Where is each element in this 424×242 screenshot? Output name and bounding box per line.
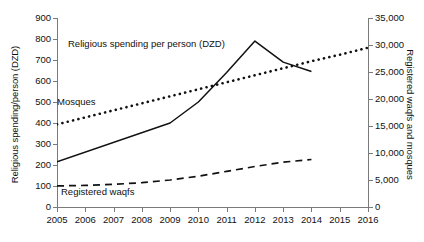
y-axis-right-tick-label: 30,000	[375, 40, 419, 50]
x-axis-tick-mark	[368, 208, 369, 212]
y-axis-left-tick-label: 700	[17, 55, 51, 65]
x-axis-tick-mark	[170, 208, 171, 212]
x-axis-line	[57, 207, 369, 208]
x-axis-tick-label: 2012	[239, 215, 271, 225]
series-annotation-spending: Religious spending per person (DZD)	[68, 38, 225, 49]
y-axis-right-tick-mark	[369, 99, 373, 100]
y-axis-right-tick-mark	[369, 72, 373, 73]
x-axis-tick-label: 2008	[126, 215, 158, 225]
x-axis-tick-mark	[283, 208, 284, 212]
y-axis-right-tick-label: 10,000	[375, 148, 419, 158]
x-axis-tick-label: 2015	[324, 215, 356, 225]
series-line-3	[57, 159, 311, 185]
y-axis-right-tick-mark	[369, 45, 373, 46]
y-axis-right-tick-mark	[369, 126, 373, 127]
y-axis-left-tick-label: 100	[17, 181, 51, 191]
y-axis-left-tick-label: 0	[17, 202, 51, 212]
x-axis-tick-mark	[198, 208, 199, 212]
series-line-2	[57, 48, 368, 125]
y-axis-right-tick-label: 35,000	[375, 13, 419, 23]
y-axis-left-tick-label: 600	[17, 76, 51, 86]
x-axis-tick-label: 2014	[295, 215, 327, 225]
y-axis-right-tick-mark	[369, 153, 373, 154]
x-axis-tick-label: 2010	[182, 215, 214, 225]
x-axis-tick-label: 2016	[352, 215, 384, 225]
y-axis-right-tick-mark	[369, 180, 373, 181]
x-axis-tick-mark	[255, 208, 256, 212]
y-axis-right-tick-mark	[369, 18, 373, 19]
x-axis-tick-label: 2005	[41, 215, 73, 225]
series-annotation-mosques: Mosques	[57, 96, 96, 107]
x-axis-tick-label: 2006	[69, 215, 101, 225]
x-axis-tick-mark	[227, 208, 228, 212]
y-axis-left-tick-label: 900	[17, 13, 51, 23]
y-axis-right-tick-label: 0	[375, 202, 419, 212]
y-axis-right-line	[368, 18, 369, 208]
y-axis-left-tick-label: 400	[17, 118, 51, 128]
chart-container: Religious spending/person (DZD) Register…	[0, 0, 424, 242]
y-axis-right-tick-label: 5,000	[375, 175, 419, 185]
y-axis-right-tick-label: 15,000	[375, 121, 419, 131]
x-axis-tick-label: 2007	[98, 215, 130, 225]
x-axis-tick-label: 2011	[211, 215, 243, 225]
y-axis-left-tick-label: 200	[17, 160, 51, 170]
x-axis-tick-mark	[340, 208, 341, 212]
x-axis-tick-label: 2009	[154, 215, 186, 225]
y-axis-right-tick-label: 20,000	[375, 94, 419, 104]
series-annotation-waqfs: Registered waqfs	[61, 186, 134, 197]
x-axis-tick-mark	[85, 208, 86, 212]
x-axis-tick-label: 2013	[267, 215, 299, 225]
x-axis-tick-mark	[114, 208, 115, 212]
x-axis-tick-mark	[142, 208, 143, 212]
y-axis-right-tick-mark	[369, 207, 373, 208]
y-axis-left-tick-label: 300	[17, 139, 51, 149]
x-axis-tick-mark	[57, 208, 58, 212]
y-axis-right-tick-label: 25,000	[375, 67, 419, 77]
y-axis-left-tick-label: 500	[17, 97, 51, 107]
x-axis-tick-mark	[311, 208, 312, 212]
y-axis-left-tick-label: 800	[17, 34, 51, 44]
